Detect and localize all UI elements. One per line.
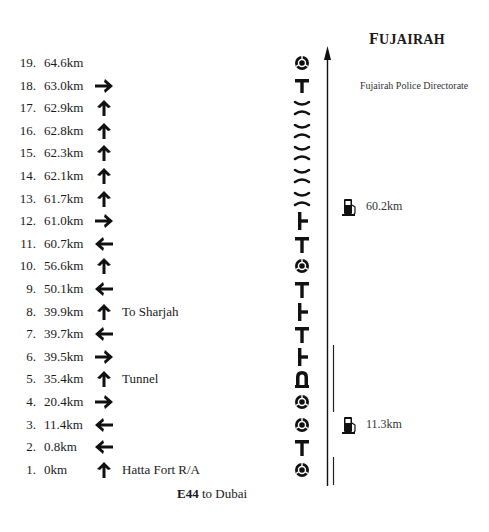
bridge-icon: [292, 98, 312, 118]
step-number: 7.: [14, 324, 36, 344]
junction-right-icon: [292, 347, 312, 367]
step-distance: 11.4km: [44, 415, 83, 435]
bridge-icon: [292, 143, 312, 163]
step-distance: 61.0km: [44, 211, 83, 231]
route-step: 10.56.6km: [0, 256, 489, 276]
step-number: 14.: [14, 166, 36, 186]
step-distance: 62.3km: [44, 143, 83, 163]
route-step: 19.64.6km: [0, 53, 489, 73]
arrow-right-icon: [94, 212, 114, 230]
step-distance: 39.5km: [44, 347, 83, 367]
route-step: 3.11.4km: [0, 415, 489, 435]
junction-right-icon: [292, 211, 312, 231]
arrow-up-icon: [94, 303, 114, 321]
route-step: 15.62.3km: [0, 143, 489, 163]
roundabout-icon: [292, 460, 312, 480]
junction-left-icon: [292, 437, 312, 457]
title-rest: UJAIRAH: [379, 32, 445, 47]
road-number: E44: [177, 486, 199, 501]
route-step: 13.61.7km: [0, 189, 489, 209]
route-step: 6.39.5km: [0, 347, 489, 367]
step-distance: 62.9km: [44, 98, 83, 118]
step-distance: 39.9km: [44, 302, 83, 322]
arrow-left-icon: [94, 325, 114, 343]
junction-left-icon: [292, 234, 312, 254]
t-junction-icon: [292, 76, 312, 96]
route-step: 8.39.9kmTo Sharjah: [0, 302, 489, 322]
step-number: 10.: [14, 256, 36, 276]
step-distance: 60.7km: [44, 234, 83, 254]
step-number: 1.: [14, 460, 36, 480]
route-step: 1.0kmHatta Fort R/A: [0, 460, 489, 480]
step-number: 15.: [14, 143, 36, 163]
arrow-up-icon: [94, 190, 114, 208]
arrow-up-icon: [94, 167, 114, 185]
step-number: 3.: [14, 415, 36, 435]
route-step: 14.62.1km: [0, 166, 489, 186]
arrow-up-icon: [94, 461, 114, 479]
step-number: 17.: [14, 98, 36, 118]
step-distance: 63.0km: [44, 76, 83, 96]
route-step: 4.20.4km: [0, 392, 489, 412]
step-number: 16.: [14, 121, 36, 141]
route-step: 16.62.8km: [0, 121, 489, 141]
junction-right-icon: [292, 302, 312, 322]
step-number: 12.: [14, 211, 36, 231]
step-distance: 56.6km: [44, 256, 83, 276]
roundabout-icon: [292, 53, 312, 73]
route-step: 5.35.4kmTunnel: [0, 369, 489, 389]
arrow-right-icon: [94, 348, 114, 366]
step-number: 19.: [14, 53, 36, 73]
arrow-up-icon: [94, 257, 114, 275]
destination-title: FUJAIRAH: [369, 30, 445, 48]
road-destination: to Dubai: [199, 486, 247, 501]
title-initial: F: [369, 30, 379, 47]
step-note: Tunnel: [122, 369, 158, 389]
step-distance: 64.6km: [44, 53, 83, 73]
arrow-right-icon: [94, 393, 114, 411]
step-number: 2.: [14, 437, 36, 457]
bridge-icon: [292, 166, 312, 186]
arrow-up-icon: [94, 144, 114, 162]
step-distance: 62.1km: [44, 166, 83, 186]
arrow-up-icon: [94, 99, 114, 117]
arrow-left-icon: [94, 416, 114, 434]
roundabout-icon: [292, 392, 312, 412]
route-origin-label: E44 to Dubai: [177, 486, 247, 502]
step-number: 18.: [14, 76, 36, 96]
route-step: 18.63.0km: [0, 76, 489, 96]
bridge-icon: [292, 121, 312, 141]
step-number: 8.: [14, 302, 36, 322]
step-distance: 50.1km: [44, 279, 83, 299]
step-number: 13.: [14, 189, 36, 209]
arrow-left-icon: [94, 438, 114, 456]
step-number: 5.: [14, 369, 36, 389]
step-distance: 62.8km: [44, 121, 83, 141]
step-distance: 0.8km: [44, 437, 77, 457]
step-distance: 61.7km: [44, 189, 83, 209]
step-number: 6.: [14, 347, 36, 367]
route-step: 9.50.1km: [0, 279, 489, 299]
roundabout-icon: [292, 256, 312, 276]
step-distance: 0km: [44, 460, 67, 480]
step-number: 9.: [14, 279, 36, 299]
route-step: 17.62.9km: [0, 98, 489, 118]
step-note: Hatta Fort R/A: [122, 460, 200, 480]
tunnel-icon: [292, 369, 312, 389]
route-step: 7.39.7km: [0, 324, 489, 344]
step-distance: 39.7km: [44, 324, 83, 344]
bridge-icon: [292, 189, 312, 209]
arrow-right-icon: [94, 77, 114, 95]
step-note: To Sharjah: [122, 302, 179, 322]
route-step: 2.0.8km: [0, 437, 489, 457]
arrow-left-icon: [94, 235, 114, 253]
junction-left-icon: [292, 279, 312, 299]
step-distance: 20.4km: [44, 392, 83, 412]
route-step: 12.61.0km: [0, 211, 489, 231]
step-distance: 35.4km: [44, 369, 83, 389]
arrow-left-icon: [94, 280, 114, 298]
step-number: 4.: [14, 392, 36, 412]
arrow-up-icon: [94, 370, 114, 388]
step-number: 11.: [14, 234, 36, 254]
route-step: 11.60.7km: [0, 234, 489, 254]
